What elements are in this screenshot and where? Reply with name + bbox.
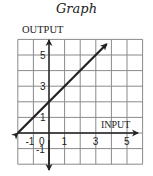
x-tick-label: 5	[124, 136, 130, 147]
y-axis-label: OUTPUT	[22, 24, 64, 35]
x-axis-label: INPUT	[101, 119, 130, 130]
x-tick-label: -1	[25, 136, 34, 147]
data-line	[18, 44, 107, 133]
x-tick-label: 1	[62, 136, 68, 147]
y-tick-label: 3	[40, 81, 46, 92]
y-tick-label: -1	[36, 144, 45, 155]
x-tick-label: 3	[93, 136, 99, 147]
y-tick-label: 5	[40, 50, 46, 61]
y-tick-label: 1	[40, 112, 46, 123]
chart-plot: OUTPUT INPUT -10135 531-1	[0, 0, 153, 176]
